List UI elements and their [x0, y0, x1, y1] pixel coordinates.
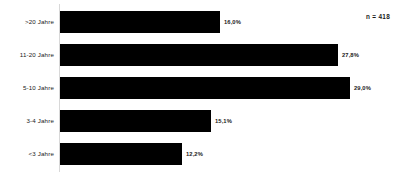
- bar-value-label: 15,1%: [215, 110, 232, 132]
- bar-value-label: 27,8%: [342, 44, 359, 66]
- bar: [60, 77, 350, 99]
- category-label: >20 Jahre: [0, 11, 54, 33]
- category-label: 11-20 Jahre: [0, 44, 54, 66]
- bar-value-label: 16,0%: [224, 11, 241, 33]
- bar-value-label: 29,0%: [354, 77, 371, 99]
- bar-track: [60, 11, 220, 33]
- bar: [60, 11, 220, 33]
- bar-track: [60, 77, 350, 99]
- bar-value-label: 12,2%: [186, 143, 203, 165]
- bar: [60, 143, 182, 165]
- table-row: <3 Jahre 12,2%: [0, 143, 398, 165]
- table-row: 11-20 Jahre 27,8%: [0, 44, 398, 66]
- bar-track: [60, 44, 338, 66]
- bar-chart: >20 Jahre 16,0% 11-20 Jahre 27,8% 5-10 J…: [0, 0, 398, 178]
- table-row: 3-4 Jahre 15,1%: [0, 110, 398, 132]
- plot-area: >20 Jahre 16,0% 11-20 Jahre 27,8% 5-10 J…: [0, 0, 398, 178]
- bar-track: [60, 110, 211, 132]
- bar: [60, 44, 338, 66]
- sample-size-annotation: n = 418: [366, 13, 390, 20]
- category-label: 5-10 Jahre: [0, 77, 54, 99]
- category-label: 3-4 Jahre: [0, 110, 54, 132]
- bar: [60, 110, 211, 132]
- table-row: >20 Jahre 16,0%: [0, 11, 398, 33]
- table-row: 5-10 Jahre 29,0%: [0, 77, 398, 99]
- bar-track: [60, 143, 182, 165]
- category-label: <3 Jahre: [0, 143, 54, 165]
